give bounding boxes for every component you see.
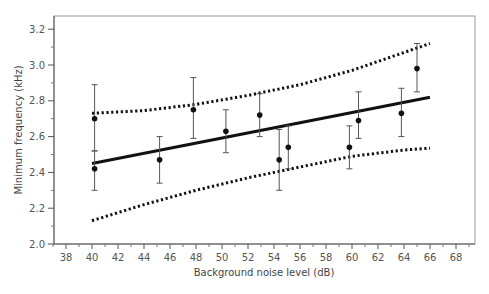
y-tick-label: 2.4 bbox=[29, 167, 45, 178]
y-tick-label: 2.6 bbox=[29, 131, 45, 142]
point-marker bbox=[92, 116, 98, 122]
point-marker bbox=[356, 118, 362, 124]
y-axis-title: Minimum frequency (kHz) bbox=[13, 65, 24, 194]
data-point bbox=[356, 92, 362, 139]
y-tick-label: 2.2 bbox=[29, 203, 45, 214]
point-marker bbox=[92, 166, 98, 172]
x-tick-label: 44 bbox=[138, 252, 151, 263]
lower-confidence-band bbox=[92, 148, 430, 221]
x-tick-label: 50 bbox=[216, 252, 229, 263]
point-marker bbox=[399, 111, 405, 117]
point-marker bbox=[276, 157, 282, 163]
data-points bbox=[92, 44, 420, 191]
x-axis-title: Background noise level (dB) bbox=[194, 267, 335, 278]
upper-confidence-band bbox=[92, 44, 430, 114]
y-tick-label: 2.8 bbox=[29, 95, 45, 106]
point-marker bbox=[191, 107, 197, 113]
regression-line-path bbox=[92, 97, 430, 163]
x-tick-label: 62 bbox=[372, 252, 385, 263]
point-marker bbox=[347, 145, 353, 151]
x-tick-label: 60 bbox=[346, 252, 359, 263]
x-axis: 38404244464850525456586062646668 bbox=[53, 244, 469, 263]
data-point bbox=[346, 126, 352, 169]
point-marker bbox=[157, 157, 163, 163]
y-tick-label: 2.0 bbox=[29, 239, 45, 250]
x-tick-label: 56 bbox=[294, 252, 307, 263]
regression-line bbox=[92, 97, 430, 163]
x-tick-label: 58 bbox=[320, 252, 333, 263]
x-tick-label: 66 bbox=[424, 252, 437, 263]
x-tick-label: 48 bbox=[190, 252, 203, 263]
x-tick-label: 42 bbox=[112, 252, 125, 263]
y-axis: 2.02.22.42.62.83.03.2 bbox=[29, 24, 54, 250]
point-marker bbox=[286, 145, 292, 151]
data-point bbox=[92, 85, 98, 151]
data-point bbox=[398, 88, 404, 136]
scatter-chart: 38404244464850525456586062646668 2.02.22… bbox=[0, 0, 489, 294]
x-tick-label: 38 bbox=[60, 252, 73, 263]
data-point bbox=[92, 151, 98, 190]
data-point bbox=[157, 137, 163, 184]
point-marker bbox=[223, 128, 229, 134]
x-tick-label: 68 bbox=[450, 252, 463, 263]
x-tick-label: 52 bbox=[242, 252, 255, 263]
x-tick-label: 40 bbox=[86, 252, 99, 263]
data-point bbox=[190, 78, 196, 139]
data-point bbox=[285, 126, 291, 169]
confidence-bands bbox=[92, 44, 430, 221]
y-tick-label: 3.2 bbox=[29, 24, 45, 35]
data-point bbox=[223, 110, 229, 153]
x-tick-label: 54 bbox=[268, 252, 281, 263]
data-point bbox=[276, 129, 282, 190]
x-tick-label: 64 bbox=[398, 252, 411, 263]
y-tick-label: 3.0 bbox=[29, 60, 45, 71]
data-point bbox=[414, 44, 420, 92]
point-marker bbox=[414, 66, 420, 72]
point-marker bbox=[257, 112, 263, 118]
x-tick-label: 46 bbox=[164, 252, 177, 263]
